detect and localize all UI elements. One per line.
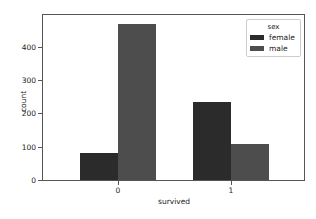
x-tick-label: 1: [229, 186, 234, 195]
bar-male-0: [118, 24, 156, 180]
y-tick: [38, 147, 42, 148]
legend: sex female male: [246, 19, 301, 57]
y-tick: [38, 113, 42, 114]
legend-swatch-female: [250, 35, 264, 40]
y-tick-label: 0: [31, 176, 36, 185]
x-axis-title: survived: [158, 197, 190, 206]
y-tick: [38, 47, 42, 48]
legend-label-female: female: [269, 33, 295, 42]
y-tick-label: 100: [22, 142, 36, 151]
legend-swatch-male: [250, 46, 264, 51]
y-tick-label: 400: [22, 42, 36, 51]
y-tick-label: 300: [22, 76, 36, 85]
legend-label-male: male: [269, 44, 288, 53]
legend-item-male: male: [250, 44, 288, 53]
y-tick: [38, 180, 42, 181]
bar-female-0: [80, 153, 118, 180]
bar-male-1: [231, 144, 269, 180]
bar-female-1: [193, 102, 231, 180]
y-tick: [38, 80, 42, 81]
y-tick-label: 200: [22, 109, 36, 118]
x-tick-label: 0: [116, 186, 121, 195]
legend-title: sex: [247, 23, 300, 31]
x-tick: [118, 181, 119, 185]
legend-item-female: female: [250, 33, 295, 42]
x-tick: [231, 181, 232, 185]
